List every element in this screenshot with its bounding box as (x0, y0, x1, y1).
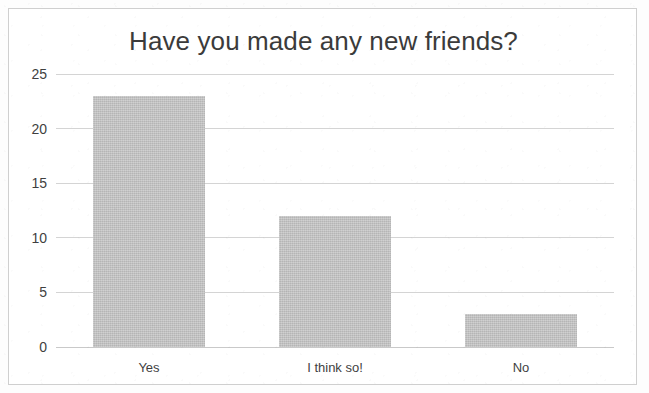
scanned-page: Have you made any new friends? 051015202… (0, 0, 649, 393)
x-axis-category-label: No (513, 360, 530, 375)
y-axis-tick-label: 25 (31, 66, 47, 82)
y-axis-tick-label: 10 (31, 230, 47, 246)
bar[interactable] (465, 314, 578, 347)
bar[interactable] (93, 96, 206, 347)
y-axis-tick-label: 15 (31, 175, 47, 191)
y-axis-tick-label: 20 (31, 121, 47, 137)
y-axis-tick-label: 5 (39, 284, 47, 300)
x-axis-category-label: I think so! (307, 360, 363, 375)
bar[interactable] (279, 216, 392, 347)
y-axis-tick-label: 0 (39, 339, 47, 355)
chart-title: Have you made any new friends? (9, 25, 638, 57)
chart-frame: Have you made any new friends? 051015202… (8, 8, 637, 385)
gridline (56, 74, 614, 75)
plot-area: 0510152025YesI think so!No (56, 74, 614, 347)
x-axis-category-label: Yes (138, 360, 159, 375)
